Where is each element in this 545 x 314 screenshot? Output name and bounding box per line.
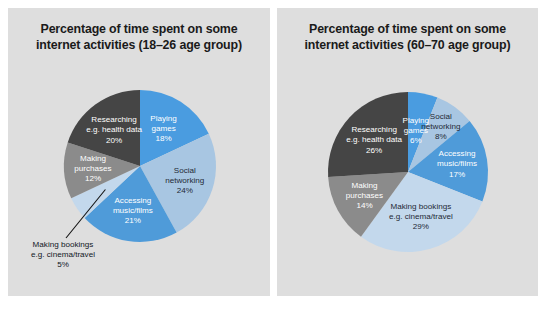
pie-label-line: 20%	[86, 135, 142, 145]
chart-panel-right: Percentage of time spent on some interne…	[277, 8, 538, 296]
pie-slice-label: Makingpurchases12%	[74, 154, 111, 185]
pie-slice-label: Makingpurchases14%	[346, 181, 383, 212]
pie-label-line: 14%	[346, 201, 383, 211]
pie-label-line: e.g. health data	[86, 125, 142, 135]
pie-callout-label: Making bookingse.g. cinema/travel5%	[31, 240, 95, 271]
pie-label-line: Making	[346, 181, 383, 191]
pie-slice-label: Researchinge.g. health data26%	[346, 125, 402, 156]
pie-label-line: music/films	[437, 159, 477, 169]
pie-chart-right: Playinggames6%Socialnetworking8%Accessin…	[277, 8, 538, 296]
pie-slice-label: Socialnetworking8%	[421, 111, 460, 142]
pie-label-line: e.g. cinema/travel	[389, 212, 453, 222]
pie-label-line: Accessing	[437, 149, 477, 159]
pie-label-line: games	[150, 124, 177, 134]
pie-slices	[277, 8, 538, 296]
pie-label-line: purchases	[346, 191, 383, 201]
pie-label-line: 24%	[165, 186, 204, 196]
pie-slice-label: Researchinge.g. health data20%	[86, 115, 142, 146]
pie-label-line: 21%	[113, 216, 153, 226]
pie-label-line: 17%	[437, 169, 477, 179]
chart-panel-left: Percentage of time spent on some interne…	[8, 8, 270, 296]
pie-label-line: Social	[165, 165, 204, 175]
pie-slice-label: Playinggames18%	[150, 114, 177, 145]
pie-label-line: networking	[421, 122, 460, 132]
pie-slice-label: Making bookingse.g. cinema/travel29%	[389, 201, 453, 232]
pie-label-line: e.g. cinema/travel	[31, 250, 95, 260]
pie-label-line: 8%	[421, 132, 460, 142]
pie-label-line: Making	[74, 154, 111, 164]
pie-slice-label: Accessingmusic/films21%	[113, 196, 153, 227]
pie-label-line: Accessing	[113, 196, 153, 206]
pie-label-line: Researching	[86, 115, 142, 125]
pie-label-line: Social	[421, 111, 460, 121]
figure-canvas: Percentage of time spent on some interne…	[0, 0, 545, 314]
pie-label-line: Making bookings	[389, 201, 453, 211]
pie-label-line: networking	[165, 176, 204, 186]
pie-chart-left: Playinggames18%Socialnetworking24%Access…	[8, 8, 270, 296]
pie-label-line: 18%	[150, 134, 177, 144]
pie-slice-label: Accessingmusic/films17%	[437, 149, 477, 180]
pie-label-line: Researching	[346, 125, 402, 135]
pie-label-line: 5%	[31, 260, 95, 270]
pie-label-line: 26%	[346, 145, 402, 155]
pie-label-line: Playing	[150, 114, 177, 124]
pie-label-line: music/films	[113, 206, 153, 216]
pie-label-line: Making bookings	[31, 240, 95, 250]
pie-label-line: 29%	[389, 222, 453, 232]
pie-label-line: purchases	[74, 164, 111, 174]
pie-slice-label: Socialnetworking24%	[165, 165, 204, 196]
pie-label-line: e.g. health data	[346, 135, 402, 145]
pie-label-line: 12%	[74, 174, 111, 184]
